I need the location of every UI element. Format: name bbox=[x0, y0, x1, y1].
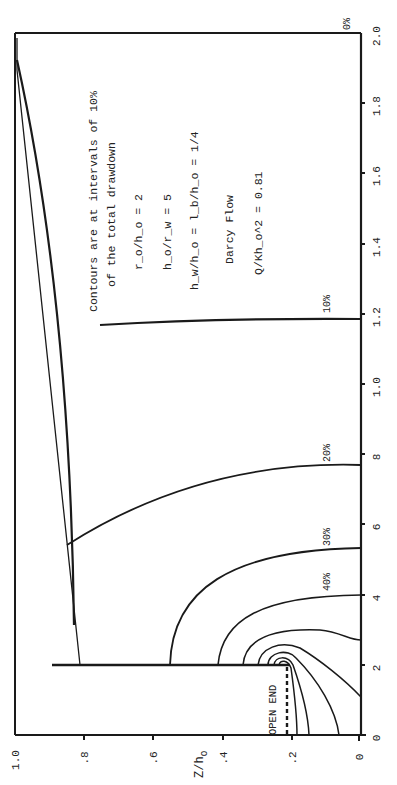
r-tick-0.2: 2 bbox=[371, 665, 383, 672]
z-tick-0.2: .2 bbox=[287, 751, 299, 764]
contour-label-0: 0% bbox=[342, 18, 353, 30]
z-tick-1.0: 1.0 bbox=[10, 750, 22, 770]
annotation-block: Contours are at intervals of 10% of the … bbox=[87, 91, 265, 312]
z-tick-0.6: .6 bbox=[148, 751, 160, 764]
contour-label-40: 40% bbox=[322, 573, 333, 591]
annotation-param-ro-ho: r_o/h_o = 2 bbox=[132, 194, 145, 270]
contour-20-percent bbox=[67, 465, 361, 545]
r-tick-1.6: 1.6 bbox=[371, 166, 383, 186]
r-tick-2.0: 2.0 bbox=[371, 26, 383, 46]
z-axis-title: Z/ho bbox=[193, 750, 210, 778]
r-tick-1.4: 1.4 bbox=[371, 237, 383, 257]
r-tick-0.4: 4 bbox=[371, 594, 383, 601]
z-axis-title-main: Z/h bbox=[193, 756, 207, 778]
r-tick-0.8: 8 bbox=[371, 454, 383, 461]
contour-label-10: 10% bbox=[322, 295, 333, 313]
contour-0-percent bbox=[17, 38, 80, 665]
contour-label-30: 30% bbox=[322, 528, 333, 546]
z-tick-0.8: .8 bbox=[79, 751, 91, 764]
annotation-param-ho-rw: h_o/r_w = 5 bbox=[161, 194, 174, 270]
annotation-line1: Contours are at intervals of 10% bbox=[87, 91, 100, 312]
z-tick-0: 0 bbox=[354, 754, 366, 761]
r-tick-1.8: 1.8 bbox=[371, 96, 383, 116]
drawdown-contour-figure: 0 2 4 6 8 1.0 1.2 1.4 1.6 1.8 2.0 1.0 .8… bbox=[0, 0, 397, 785]
z-tick-0.4: .4 bbox=[218, 751, 230, 765]
r-tick-0.6: 6 bbox=[371, 524, 383, 531]
r-axis-labels: 0 2 4 6 8 1.0 1.2 1.4 1.6 1.8 2.0 bbox=[371, 26, 383, 741]
z-axis-labels: 1.0 .8 .6 .4 .2 0 bbox=[10, 750, 366, 770]
annotation-discharge: Q/Kh_o^2 = 0.81 bbox=[252, 171, 265, 275]
inner-contours bbox=[243, 630, 361, 735]
annotation-line2: of the total drawdown bbox=[105, 142, 118, 287]
contour-30-percent bbox=[170, 548, 361, 665]
contour-50-percent bbox=[243, 630, 361, 665]
svg-text:Z/ho: Z/ho bbox=[193, 750, 210, 778]
contour-40-percent bbox=[218, 595, 361, 665]
open-end-label: OPEN END bbox=[267, 685, 279, 735]
r-tick-0: 0 bbox=[371, 735, 383, 742]
r-tick-1.0: 1.0 bbox=[371, 377, 383, 397]
annotation-param-hw-ho: h_w/h_o = l_b/h_o = 1/4 bbox=[188, 131, 201, 290]
contour-label-20: 20% bbox=[322, 444, 333, 462]
r-tick-1.2: 1.2 bbox=[371, 307, 383, 327]
annotation-flow-type: Darcy Flow bbox=[223, 195, 236, 264]
z-axis-title-sub: o bbox=[199, 750, 210, 756]
